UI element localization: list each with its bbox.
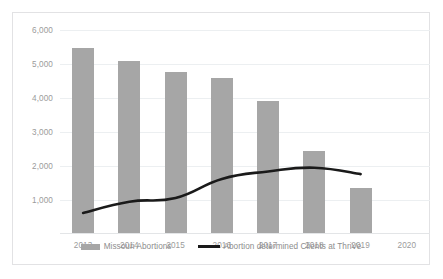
y-tick-label: 1,000	[32, 196, 53, 205]
chart-legend: Missouri AbortionsAbortion determined Cl…	[13, 242, 429, 251]
legend-line-swatch-icon	[198, 245, 220, 248]
legend-entry[interactable]: Abortion determined Clients at ThriVe	[198, 242, 362, 251]
y-tick-label: 4,000	[32, 94, 53, 103]
line-path	[83, 168, 361, 213]
y-tick-label: 5,000	[32, 60, 53, 69]
chart-screenshot: 6,0005,0004,0003,0002,0001,000 201320142…	[0, 0, 443, 279]
y-tick-label: 2,000	[32, 162, 53, 171]
line-series-thrive-clients	[60, 30, 430, 234]
chart-frame: 6,0005,0004,0003,0002,0001,000 201320142…	[12, 12, 430, 265]
y-tick-label: 3,000	[32, 128, 53, 137]
legend-bar-swatch-icon	[81, 244, 100, 250]
legend-label: Abortion determined Clients at ThriVe	[224, 242, 362, 251]
legend-label: Missouri Abortions	[104, 242, 172, 251]
plot-area: 6,0005,0004,0003,0002,0001,000 201320142…	[60, 30, 430, 234]
legend-entry[interactable]: Missouri Abortions	[81, 242, 172, 251]
y-tick-label: 6,000	[32, 26, 53, 35]
axis-baseline	[60, 233, 430, 234]
